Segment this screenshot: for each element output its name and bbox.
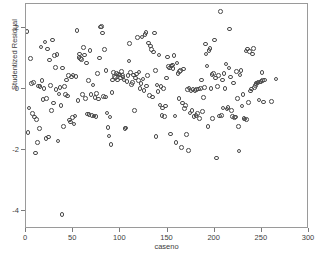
data-point xyxy=(106,125,111,130)
x-axis-tick-label: 100 xyxy=(113,233,126,242)
x-axis-label: caseno xyxy=(25,242,308,251)
data-point xyxy=(235,96,240,101)
data-point xyxy=(47,58,52,63)
data-point xyxy=(60,212,65,217)
data-point xyxy=(49,108,54,113)
data-point xyxy=(81,45,86,50)
x-axis-tick-label: 250 xyxy=(255,233,268,242)
data-point xyxy=(91,83,96,88)
data-point xyxy=(200,109,205,114)
data-point xyxy=(102,47,107,52)
data-point xyxy=(145,73,150,78)
data-point xyxy=(57,92,62,97)
x-axis-tick xyxy=(167,228,168,232)
data-point xyxy=(162,114,167,119)
data-point xyxy=(183,103,188,108)
data-point xyxy=(197,116,202,121)
data-point xyxy=(210,116,215,121)
data-point xyxy=(107,134,112,139)
scatter-plot-figure: caseno Studentized Residual 050100150200… xyxy=(0,0,319,253)
data-point xyxy=(201,95,206,100)
data-point xyxy=(229,108,234,113)
data-point xyxy=(269,99,274,104)
data-point xyxy=(215,84,220,89)
data-point xyxy=(237,149,242,154)
data-point xyxy=(59,103,64,108)
data-point xyxy=(94,91,99,96)
data-point xyxy=(214,156,219,161)
data-point xyxy=(26,29,29,34)
y-axis-tick-label: -2 xyxy=(12,144,19,153)
data-point xyxy=(73,114,78,119)
data-point xyxy=(55,52,60,57)
data-point xyxy=(205,64,210,69)
y-axis-tick-label: 2 xyxy=(15,23,19,32)
data-point xyxy=(83,96,88,101)
data-point xyxy=(175,61,180,66)
data-point xyxy=(79,57,84,62)
data-point xyxy=(246,100,251,105)
data-point xyxy=(144,30,149,35)
data-point xyxy=(186,148,191,153)
data-point xyxy=(156,89,161,94)
data-point xyxy=(132,108,137,113)
data-point xyxy=(168,132,173,137)
data-point xyxy=(240,104,245,109)
data-point xyxy=(260,70,265,75)
data-point xyxy=(48,83,53,88)
data-point xyxy=(227,66,232,71)
data-point xyxy=(163,104,168,109)
data-point xyxy=(39,45,44,50)
data-point xyxy=(60,66,65,71)
data-point xyxy=(124,126,129,131)
data-point xyxy=(103,95,108,100)
data-point xyxy=(127,59,132,64)
data-point xyxy=(244,117,249,122)
data-point xyxy=(222,71,227,76)
data-point xyxy=(177,96,182,101)
data-point xyxy=(152,31,157,36)
data-point xyxy=(142,88,147,93)
data-point xyxy=(150,95,155,100)
data-point xyxy=(34,117,39,122)
data-point xyxy=(261,100,266,105)
data-point xyxy=(227,27,232,32)
data-point xyxy=(228,75,233,80)
data-point xyxy=(154,134,159,139)
data-point xyxy=(97,56,102,61)
plot-frame xyxy=(25,3,308,228)
data-point xyxy=(206,124,211,129)
data-point xyxy=(33,151,38,156)
y-axis-tick xyxy=(21,88,25,89)
data-point xyxy=(127,41,132,46)
data-point xyxy=(179,145,184,150)
data-point xyxy=(95,71,100,76)
x-axis-tick xyxy=(72,228,73,232)
data-point xyxy=(208,46,213,51)
data-point xyxy=(139,81,144,86)
data-point xyxy=(172,53,177,58)
data-point xyxy=(72,122,77,127)
data-point xyxy=(51,101,56,106)
data-point xyxy=(99,24,104,29)
data-point xyxy=(108,115,113,120)
data-point xyxy=(144,84,149,89)
data-point xyxy=(199,78,204,83)
data-point xyxy=(65,94,70,99)
data-point xyxy=(157,53,162,58)
data-point xyxy=(135,35,140,40)
data-point xyxy=(274,77,279,82)
data-point xyxy=(219,113,224,118)
data-point xyxy=(236,124,241,129)
data-point xyxy=(153,68,158,73)
data-point xyxy=(64,78,69,83)
x-axis-tick-label: 200 xyxy=(207,233,220,242)
x-axis-tick xyxy=(261,228,262,232)
data-point xyxy=(184,132,189,137)
data-point xyxy=(220,78,225,83)
x-axis-tick-label: 300 xyxy=(302,233,315,242)
data-point xyxy=(35,140,40,145)
data-point xyxy=(76,98,81,103)
y-axis-tick-label: -4 xyxy=(12,205,19,214)
data-point xyxy=(50,38,55,43)
